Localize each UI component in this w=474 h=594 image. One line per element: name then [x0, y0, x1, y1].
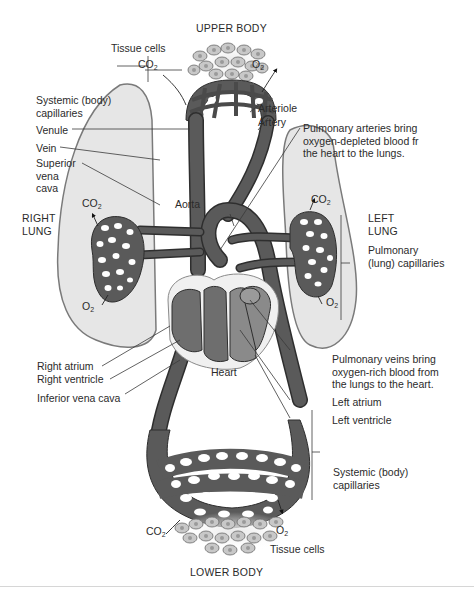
lower-co2-label: CO2 — [146, 525, 166, 542]
bottom-divider — [0, 586, 474, 587]
right-lung-label: RIGHTLUNG — [22, 212, 56, 237]
systemic-upper-capillaries-label: Systemic (body)capillaries — [36, 94, 111, 119]
lower-systemic-capillaries — [147, 420, 310, 528]
right-ventricle-label: Right ventricle — [37, 373, 104, 386]
inferior-vena-cava-label: Inferior vena cava — [37, 392, 120, 405]
right-lung-co2-label: CO2 — [82, 197, 102, 214]
circulatory-diagram — [0, 0, 474, 594]
venule-label: Venule — [36, 124, 68, 137]
systemic-lower-capillaries-label: Systemic (body)capillaries — [333, 466, 408, 491]
heart-label: Heart — [211, 366, 237, 379]
left-lung-co2-label: CO2 — [311, 193, 331, 210]
left-lung-label: LEFTLUNG — [368, 212, 398, 237]
upper-o2-label: O2 — [252, 58, 264, 75]
upper-body-title: UPPER BODY — [196, 22, 267, 35]
pulmonary-arteries-label: Pulmonary arteries bringoxygen-depleted … — [303, 122, 419, 160]
aorta-label: Aorta — [175, 198, 200, 211]
arteriole-label: Arteriole — [258, 102, 297, 115]
left-atrium-label: Left atrium — [332, 396, 382, 409]
right-atrium-label: Right atrium — [37, 360, 94, 373]
heart — [168, 274, 279, 369]
lower-tissue-cells-label: Tissue cells — [270, 543, 324, 556]
lower-body-title: LOWER BODY — [190, 566, 263, 579]
upper-tissue-cells-label: Tissue cells — [111, 42, 165, 55]
lower-o2-label: O2 — [276, 524, 288, 541]
vein-label: Vein — [36, 142, 56, 155]
artery-label: Artery — [258, 116, 286, 129]
pulmonary-capillaries-label: Pulmonary(lung) capillaries — [368, 244, 444, 269]
right-lung — [58, 84, 156, 347]
superior-vena-cava-label: Superiorvenacava — [36, 157, 76, 195]
right-lung-o2-label: O2 — [82, 300, 94, 317]
left-lung-o2-label: O2 — [326, 296, 338, 313]
pulmonary-veins-label: Pulmonary veins bringoxygen-rich blood f… — [332, 353, 439, 391]
upper-co2-label: CO2 — [138, 58, 158, 75]
left-ventricle-label: Left ventricle — [332, 414, 392, 427]
